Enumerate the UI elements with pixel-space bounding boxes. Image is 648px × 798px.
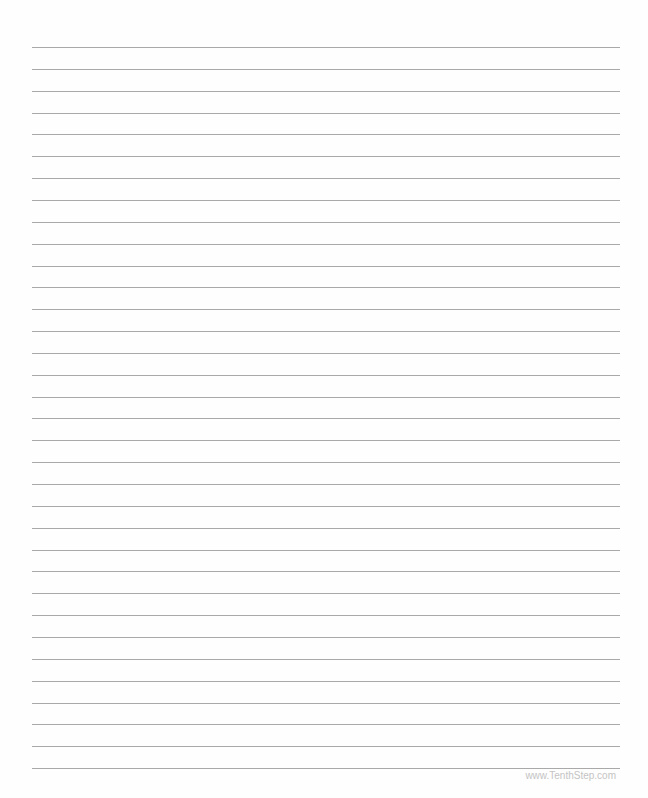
ruled-line — [32, 615, 620, 616]
ruled-line — [32, 178, 620, 179]
ruled-line — [32, 746, 620, 747]
ruled-line — [32, 353, 620, 354]
ruled-line — [32, 462, 620, 463]
ruled-line — [32, 47, 620, 48]
ruled-line — [32, 637, 620, 638]
ruled-line — [32, 593, 620, 594]
ruled-line — [32, 222, 620, 223]
ruled-line — [32, 724, 620, 725]
ruled-line — [32, 287, 620, 288]
ruled-line — [32, 550, 620, 551]
ruled-line — [32, 134, 620, 135]
ruled-line — [32, 331, 620, 332]
ruled-line — [32, 309, 620, 310]
ruled-line — [32, 768, 620, 769]
ruled-line — [32, 69, 620, 70]
ruled-line — [32, 244, 620, 245]
ruled-line — [32, 440, 620, 441]
ruled-line — [32, 703, 620, 704]
ruled-line — [32, 571, 620, 572]
ruled-line — [32, 113, 620, 114]
ruled-line — [32, 375, 620, 376]
ruled-line — [32, 91, 620, 92]
ruled-line — [32, 506, 620, 507]
ruled-line — [32, 484, 620, 485]
ruled-line — [32, 200, 620, 201]
ruled-line — [32, 266, 620, 267]
ruled-line — [32, 681, 620, 682]
ruled-line — [32, 418, 620, 419]
ruled-line — [32, 528, 620, 529]
ruled-line — [32, 156, 620, 157]
lined-paper-sheet: www.TenthStep.com — [0, 0, 648, 798]
ruled-line — [32, 659, 620, 660]
footer-watermark: www.TenthStep.com — [525, 770, 616, 781]
ruled-line — [32, 397, 620, 398]
